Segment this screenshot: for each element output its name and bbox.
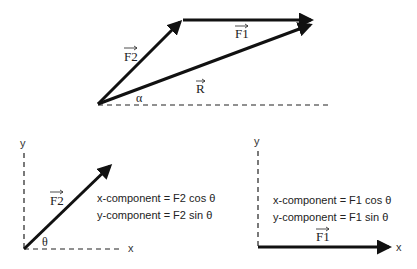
f2-label: F2 bbox=[124, 49, 138, 64]
left-x-component: x-component = F2 cos θ bbox=[97, 192, 215, 204]
alpha-angle-label: α bbox=[136, 91, 143, 105]
left-f2-vector-arrow bbox=[24, 166, 110, 249]
right-y-axis-label: y bbox=[254, 135, 260, 147]
left-f2-label: F2 bbox=[50, 193, 64, 208]
vector-addition-diagram: F2 F1 R α y x F2 θ x-component = F2 cos … bbox=[0, 0, 417, 269]
resultant-label: R bbox=[196, 81, 205, 96]
right-x-axis-label: x bbox=[396, 241, 402, 253]
left-y-axis-label: y bbox=[20, 137, 26, 149]
right-y-component: y-component = F1 sin θ bbox=[273, 211, 388, 223]
right-x-component: x-component = F1 cos θ bbox=[273, 194, 391, 206]
left-x-axis-label: x bbox=[128, 242, 134, 254]
top-diagram: F2 F1 R α bbox=[98, 20, 330, 105]
right-f1-label: F1 bbox=[316, 229, 330, 244]
right-panel: y x F1 x-component = F1 cos θ y-componen… bbox=[254, 135, 402, 253]
f1-label: F1 bbox=[235, 26, 249, 41]
left-y-component: y-component = F2 sin θ bbox=[97, 209, 212, 221]
left-panel: y x F2 θ x-component = F2 cos θ y-compon… bbox=[20, 137, 215, 254]
theta-angle-label: θ bbox=[42, 235, 48, 249]
